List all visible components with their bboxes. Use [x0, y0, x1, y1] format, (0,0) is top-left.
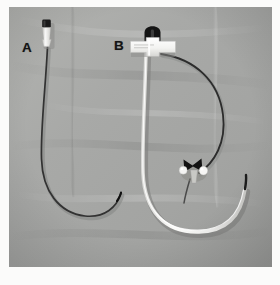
photograph: A B	[9, 7, 272, 267]
photo-vignette	[9, 7, 272, 267]
panel-label-a: A	[22, 41, 32, 55]
panel-label-b: B	[114, 39, 124, 53]
catheter-photo-svg	[9, 7, 272, 267]
photo-border: A B	[0, 0, 280, 285]
figure-root: A B	[0, 0, 280, 285]
